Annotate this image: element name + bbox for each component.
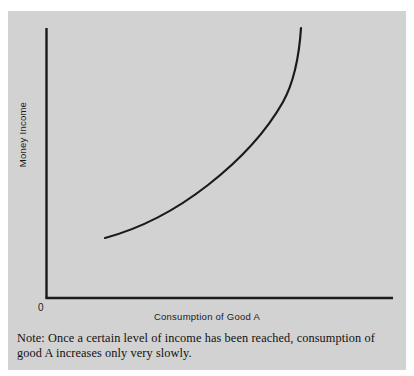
- figure-note: Note: Once a certain level of income has…: [17, 331, 389, 360]
- y-axis-label: Money Income: [17, 85, 28, 185]
- figure-panel: Money Income 0 Consumption of Good A Not…: [8, 11, 406, 370]
- chart-svg: [8, 11, 406, 321]
- figure-container: Money Income 0 Consumption of Good A Not…: [0, 0, 414, 376]
- engel-curve: [105, 28, 301, 238]
- x-axis-label: Consumption of Good A: [8, 311, 406, 322]
- chart-plot-area: [8, 11, 406, 321]
